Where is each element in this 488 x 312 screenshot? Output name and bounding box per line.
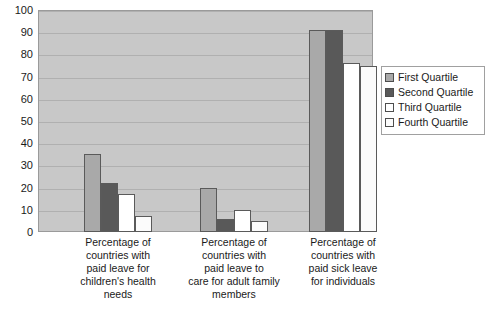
legend-item-label: First Quartile <box>398 72 458 83</box>
y-axis-tick-label: 100 <box>0 5 33 16</box>
y-axis-tick-label: 30 <box>0 160 33 171</box>
x-axis-label-line: paid sick leave <box>280 262 406 275</box>
legend-swatch-icon <box>385 73 394 82</box>
legend-item: Second Quartile <box>385 85 481 100</box>
x-axis-label-line: paid leave to <box>171 262 297 275</box>
x-axis-group-label: Percentage ofcountries withpaid sick lea… <box>280 236 406 288</box>
bar <box>251 221 268 232</box>
legend-item-label: Fourth Quartile <box>398 117 468 128</box>
x-axis-label-line: care for adult family <box>171 275 297 288</box>
legend-item-label: Second Quartile <box>398 87 473 98</box>
x-axis-group-label: Percentage ofcountries withpaid leave fo… <box>55 236 181 301</box>
bar <box>360 66 377 233</box>
x-axis-label-line: members <box>171 288 297 301</box>
x-axis-label-line: countries with <box>171 249 297 262</box>
y-axis-tick-label: 20 <box>0 183 33 194</box>
legend-swatch-icon <box>385 103 394 112</box>
y-axis-tick-label: 50 <box>0 116 33 127</box>
bar <box>343 63 360 232</box>
x-axis: Percentage ofcountries withpaid leave fo… <box>38 236 373 308</box>
bars-layer <box>38 10 373 232</box>
legend: First QuartileSecond QuartileThird Quart… <box>381 66 485 135</box>
x-axis-label-line: paid leave for <box>55 262 181 275</box>
bar <box>326 30 343 232</box>
y-axis-tick-label: 0 <box>0 227 33 238</box>
bar <box>101 183 118 232</box>
legend-item: First Quartile <box>385 70 481 85</box>
y-axis-tick-label: 90 <box>0 27 33 38</box>
bar <box>84 154 101 232</box>
bar <box>135 216 152 232</box>
x-axis-label-line: for individuals <box>280 275 406 288</box>
x-axis-label-line: needs <box>55 288 181 301</box>
y-axis: 1009080706050403020100 <box>0 10 33 232</box>
y-axis-tick-label: 70 <box>0 72 33 83</box>
bar <box>217 219 234 232</box>
x-axis-label-line: Percentage of <box>55 236 181 249</box>
y-axis-tick-label: 60 <box>0 94 33 105</box>
x-axis-label-line: countries with <box>55 249 181 262</box>
x-axis-group-label: Percentage ofcountries withpaid leave to… <box>171 236 297 301</box>
y-axis-tick-label: 10 <box>0 205 33 216</box>
legend-item-label: Third Quartile <box>398 102 462 113</box>
legend-swatch-icon <box>385 88 394 97</box>
bar-chart: 1009080706050403020100 Percentage ofcoun… <box>0 0 488 312</box>
legend-swatch-icon <box>385 118 394 127</box>
bar <box>200 188 217 232</box>
x-axis-label-line: children's health <box>55 275 181 288</box>
bar <box>118 194 135 232</box>
y-axis-tick-label: 80 <box>0 49 33 60</box>
y-axis-tick-label: 40 <box>0 138 33 149</box>
x-axis-label-line: Percentage of <box>171 236 297 249</box>
x-axis-label-line: Percentage of <box>280 236 406 249</box>
bar <box>309 30 326 232</box>
bar <box>234 210 251 232</box>
legend-item: Third Quartile <box>385 100 481 115</box>
legend-item: Fourth Quartile <box>385 115 481 130</box>
x-axis-label-line: countries with <box>280 249 406 262</box>
